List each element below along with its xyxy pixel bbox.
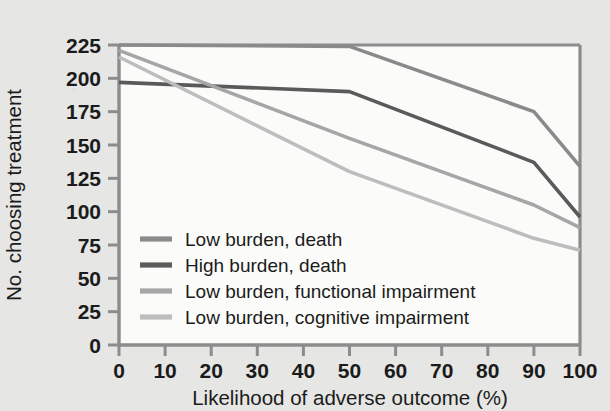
- legend-label: Low burden, cognitive impairment: [185, 307, 470, 328]
- y-tick-label: 75: [78, 234, 102, 257]
- y-tick-label: 0: [89, 334, 101, 357]
- chart-figure: 0255075100125150175200225 01020304050607…: [0, 0, 610, 411]
- x-tick-label: 40: [292, 359, 315, 382]
- line-chart: 0255075100125150175200225 01020304050607…: [0, 0, 610, 411]
- x-tick-label: 60: [384, 359, 407, 382]
- x-tick-label: 50: [338, 359, 361, 382]
- x-tick-label: 80: [476, 359, 499, 382]
- y-tick-label: 125: [66, 167, 101, 190]
- legend-label: Low burden, functional impairment: [185, 281, 476, 302]
- legend-label: High burden, death: [185, 255, 347, 276]
- x-tick-label: 10: [153, 359, 176, 382]
- y-tick-label: 175: [66, 100, 101, 123]
- x-axis-title: Likelihood of adverse outcome (%): [192, 386, 508, 409]
- x-tick-label: 100: [562, 359, 597, 382]
- x-tick-label: 0: [113, 359, 125, 382]
- y-tick-label: 225: [66, 34, 101, 57]
- x-tick-label: 90: [522, 359, 545, 382]
- x-tick-label: 70: [430, 359, 453, 382]
- y-tick-label: 25: [78, 300, 102, 323]
- y-tick-label: 150: [66, 134, 101, 157]
- y-tick-label: 200: [66, 67, 101, 90]
- y-axis-title: No. choosing treatment: [2, 89, 25, 301]
- y-tick-label: 50: [78, 267, 101, 290]
- legend-label: Low burden, death: [185, 229, 342, 250]
- x-tick-label: 20: [200, 359, 223, 382]
- y-tick-label: 100: [66, 200, 101, 223]
- x-tick-label: 30: [246, 359, 269, 382]
